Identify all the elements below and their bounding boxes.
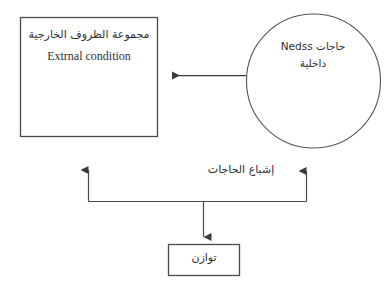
external-conditions-box (21, 18, 158, 137)
diagram-canvas (0, 0, 389, 297)
balance-box (169, 245, 240, 276)
internal-needs-circle (247, 14, 381, 148)
diagram-page: { "diagram": { "type": "flow-diagram", "… (0, 0, 389, 297)
